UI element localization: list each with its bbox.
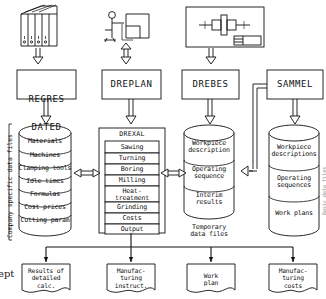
drexal-title: DREXAL <box>99 131 165 138</box>
arrow-dreplan-to-drexal <box>126 99 136 124</box>
store3-cell-work-plans: Work plans <box>267 210 321 217</box>
program-label-drebes: DREBES <box>182 80 239 89</box>
temporary-data-files-caption: Temporary data files <box>182 224 236 238</box>
store2-cell-operating-sequence: Operating sequence <box>182 166 236 180</box>
connector-store1-drexal <box>74 169 100 177</box>
output-label-manufacturing-instructions: Manufac- turing instruct. <box>107 267 155 289</box>
diagram-canvas: REGRES DATED DREPLAN DREBES SAMMEL Compa… <box>0 0 326 299</box>
program-label-sammel: SAMMEL <box>267 80 323 89</box>
store2-cell-interim-results: Interim results <box>182 192 236 206</box>
drexal-cell-heat-treatment: Heat- treatment <box>105 188 159 202</box>
drexal-cell-turning: Turning <box>105 155 159 162</box>
output-label-manufacturing-costs: Manufac- turing costs <box>269 267 317 289</box>
left-margin-text-fragment: ept <box>0 268 14 279</box>
arrow-sammel-to-store2-path <box>241 84 267 176</box>
binders-on-shelf-icon <box>21 5 57 46</box>
drexal-cell-milling: Milling <box>105 177 159 184</box>
program-label-line2: DATED <box>17 123 76 132</box>
arrow-binders-to-regres <box>33 48 43 64</box>
store2-cell-workpiece-description: Workpiece description <box>182 140 236 154</box>
store3-cell-workpiece-descriptions: Workpiece descriptions <box>267 144 321 158</box>
store3-cell-operating-sequences: Operating sequences <box>267 175 321 189</box>
right-edge-text-fragment: Basic data files <box>321 167 326 215</box>
drexal-cell-costs: Costs <box>105 215 159 222</box>
company-specific-data-files-label: Company specific data files <box>6 134 14 238</box>
drexal-cell-output: Output <box>105 226 159 233</box>
store1-cell-idle-times: Idle times <box>19 178 71 185</box>
person-at-desk-icon <box>104 12 149 42</box>
arrow-drebes-to-store2 <box>205 99 215 124</box>
store1-cell-clamping-tools: Clamping tools <box>17 165 73 172</box>
drexal-cell-grinding: Grinding <box>105 204 159 211</box>
store1-cell-formulas: Formulas <box>19 191 71 198</box>
program-label-line1: REGRES <box>17 95 76 104</box>
output-label-detailed-calc: Results of detailed calc. <box>22 267 70 289</box>
drexal-cell-boring: Boring <box>105 166 159 173</box>
arrow-operator-to-dreplan <box>121 43 131 64</box>
output-label-work-plan: Work plan <box>187 272 235 287</box>
store1-cell-cost-prices: Cost prices <box>18 204 72 211</box>
arrow-sammel-to-store3 <box>290 99 300 124</box>
engineering-drawing-icon <box>186 7 264 47</box>
output-distribution-lines <box>46 233 293 262</box>
drexal-cell-sawing: Sawing <box>105 144 159 151</box>
arrow-drawing-to-drebes <box>206 48 216 64</box>
program-label-dreplan: DREPLAN <box>102 80 161 89</box>
store1-cell-machines: Machines <box>19 152 71 159</box>
store1-cell-materials: Materials <box>19 138 71 145</box>
store1-cell-cutting-param: Cutting param <box>17 217 73 224</box>
